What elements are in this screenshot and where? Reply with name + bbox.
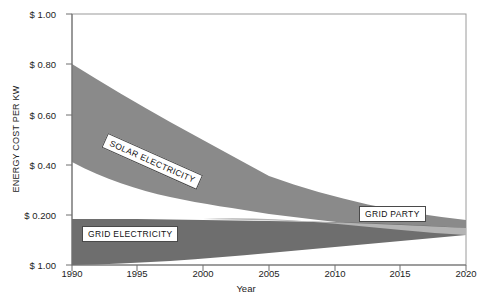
x-tick-label: 1995 xyxy=(107,268,167,279)
y-tick-label: $ 0.80 xyxy=(10,59,56,70)
x-tick-label: 2015 xyxy=(370,268,430,279)
y-tick-marks xyxy=(66,14,72,265)
y-tick-label: $ 1.00 xyxy=(10,9,56,20)
x-tick-label: 2020 xyxy=(436,268,492,279)
x-tick-label: 2010 xyxy=(305,268,365,279)
series-label-grid-electricity: GRID ELECTRICITY xyxy=(82,226,178,242)
y-axis-title: ENERGY COST PER KW xyxy=(11,79,21,199)
plot-area xyxy=(0,0,492,302)
y-tick-label: $ 0.200 xyxy=(10,210,56,221)
x-tick-label: 2005 xyxy=(239,268,299,279)
x-tick-label: 2000 xyxy=(173,268,233,279)
series-label-grid-parity: GRID PARTY xyxy=(359,206,426,222)
chart-figure: $ 1.00 $ 0.80 $ 0.60 $ 0.40 $ 0.200 $ 1.… xyxy=(0,0,492,302)
x-axis-title: Year xyxy=(0,283,492,294)
x-tick-label: 1990 xyxy=(42,268,102,279)
x-axis-tick-labels: 1990 1995 2000 2005 2010 2015 2020 xyxy=(0,268,492,284)
